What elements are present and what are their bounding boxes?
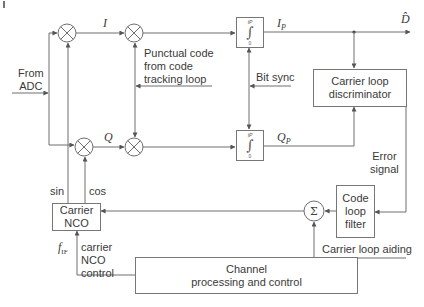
signal-i-label: I	[103, 17, 107, 30]
summer-symbol: Σ	[310, 205, 318, 218]
signal-qp-label: QP	[277, 131, 291, 148]
signal-q-label: Q	[104, 131, 113, 144]
nco-control-label: carrier NCO control	[81, 241, 114, 280]
cos-label: cos	[89, 185, 106, 198]
f-if-label: fIF	[58, 241, 68, 259]
from-adc-label: From ADC	[18, 67, 44, 93]
integrator-q: tP ∫ 0	[236, 130, 264, 161]
integral-icon: ∫	[237, 23, 263, 41]
data-estimate-label: D̂	[401, 13, 410, 26]
code-loop-filter-block: Code loop filter	[336, 185, 375, 238]
channel-processing-block: Channel processing and control	[135, 257, 358, 294]
integral-icon: ∫	[237, 136, 263, 154]
signal-ip-label: IP	[277, 17, 286, 34]
carrier-nco-block: Carrier NCO	[52, 203, 101, 231]
carrier-loop-aiding-label: Carrier loop aiding	[322, 243, 412, 256]
sin-label: sin	[50, 185, 64, 198]
bit-sync-label: Bit sync	[256, 71, 295, 84]
carrier-loop-discriminator-block: Carrier loop discriminator	[313, 69, 407, 107]
punctual-code-label: Punctual code from code tracking loop	[144, 47, 214, 86]
integrator-i: tP ∫ 0	[236, 17, 264, 48]
error-signal-label: Error signal	[370, 150, 399, 176]
